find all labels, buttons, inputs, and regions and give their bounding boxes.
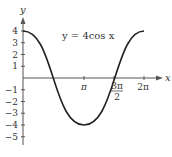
y-tick-2: 2	[12, 50, 18, 60]
x-tick-2pi: 2π	[137, 82, 149, 92]
cosine-chart: y x 4 3 2 1 −1 −2 −3 −4 −5 π 3π 2 2π y =…	[0, 0, 172, 157]
y-tick-m2: −2	[5, 97, 18, 107]
x-tick-3pi-over-2-numerator: 3π	[111, 81, 123, 91]
x-tick-pi: π	[80, 82, 88, 92]
y-tick-m1: −1	[5, 85, 18, 95]
y-tick-3: 3	[12, 38, 18, 48]
x-axis-label: x	[165, 72, 171, 83]
x-axis-arrow-icon	[156, 76, 163, 81]
y-tick-m4: −4	[5, 120, 19, 130]
y-tick-1: 1	[12, 61, 18, 71]
y-axis-arrow-icon	[21, 17, 26, 24]
y-axis-label: y	[19, 4, 26, 15]
y-tick-m5: −5	[5, 132, 19, 142]
equation-label: y = 4cos x	[61, 30, 115, 41]
y-tick-4: 4	[12, 26, 18, 36]
x-tick-3pi-over-2-denominator: 2	[114, 92, 120, 102]
y-tick-m3: −3	[5, 108, 19, 118]
